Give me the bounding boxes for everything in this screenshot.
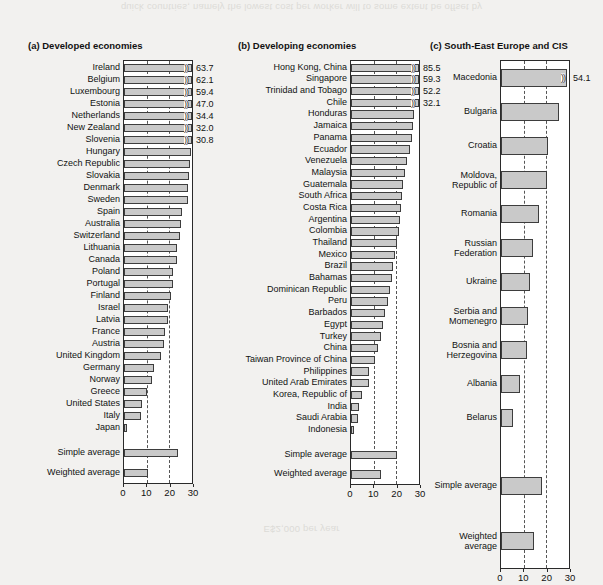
bar-row: Thailand — [351, 237, 419, 249]
axis-break-icon: )) — [411, 87, 415, 96]
bar — [351, 180, 403, 188]
value-label: 32.0 — [196, 123, 214, 133]
panel-a-title: (a) Developed economies — [28, 40, 193, 51]
bar — [124, 196, 188, 205]
bar — [124, 124, 192, 133]
bar-row: Estonia))47.0 — [124, 98, 192, 110]
bar — [351, 239, 397, 247]
bar-row: Philippines — [351, 366, 419, 378]
bar — [501, 477, 542, 495]
bar-row: Dominican Republic — [351, 284, 419, 296]
axis-tick-label: 0 — [347, 488, 352, 499]
category-label: Switzerland — [25, 231, 120, 241]
panel-c-title: (c) South-East Europe and CIS — [430, 40, 570, 51]
bar-row: Korea, Republic of — [351, 389, 419, 401]
bar-row: Belarus — [501, 401, 569, 435]
category-label: Lithuania — [25, 243, 120, 253]
bar — [124, 220, 181, 229]
bar-row: Argentina — [351, 214, 419, 226]
bar-row: Costa Rica — [351, 202, 419, 214]
value-label: 85.5 — [423, 63, 441, 73]
bar-row: Portugal — [124, 278, 192, 290]
category-label: Romania — [427, 209, 497, 219]
bar-row: Albania — [501, 367, 569, 401]
bar-row: Hungary — [124, 146, 192, 158]
bar-row: Mexico — [351, 249, 419, 261]
bar — [501, 341, 527, 359]
category-label: Bosnia and Herzegovina — [427, 341, 497, 360]
bar — [124, 208, 182, 217]
category-label: Luxembourg — [25, 87, 120, 97]
category-label: Belgium — [25, 75, 120, 85]
bar — [351, 426, 354, 434]
summary-label: Simple average — [235, 450, 347, 460]
bar-row: Egypt — [351, 319, 419, 331]
axis-break-icon: )) — [184, 99, 188, 108]
category-label: Japan — [25, 423, 120, 433]
summary-label: Weighted average — [235, 470, 347, 480]
category-label: France — [25, 327, 120, 337]
category-label: Venezuela — [235, 156, 347, 166]
bar-row: Italy — [124, 410, 192, 422]
bar-row: Honduras — [351, 109, 419, 121]
category-label: Trinidad and Tobago — [235, 86, 347, 96]
bar — [124, 148, 191, 157]
bar-row: Macedonia))54.1 — [501, 61, 569, 95]
bar — [501, 69, 567, 87]
bar — [351, 297, 388, 305]
category-label: Korea, Republic of — [235, 390, 347, 400]
category-label: Spain — [25, 207, 120, 217]
x-axis: 0102030 — [123, 484, 193, 500]
category-label: Estonia — [25, 99, 120, 109]
bar — [501, 137, 548, 155]
summary-row: Simple average — [501, 469, 569, 503]
panel-b-title: (b) Developing economies — [238, 40, 420, 51]
bar-row: Ireland))63.7 — [124, 62, 192, 74]
category-label: Egypt — [235, 320, 347, 330]
bar-row: Barbados — [351, 307, 419, 319]
category-label: Panama — [235, 133, 347, 143]
bar — [351, 227, 399, 235]
bar-row: Venezuela — [351, 155, 419, 167]
bar — [501, 103, 559, 121]
bar-row: India — [351, 401, 419, 413]
plot-box: Macedonia))54.1BulgariaCroatiaMoldova, R… — [500, 60, 570, 569]
bar — [351, 110, 414, 118]
bar-row: Switzerland — [124, 230, 192, 242]
category-label: Ecuador — [235, 145, 347, 155]
category-label: Hong Kong, China — [235, 63, 347, 73]
bar-row: Panama — [351, 132, 419, 144]
axis-break-icon: )) — [184, 63, 188, 72]
axis-tick-label: 20 — [164, 487, 175, 498]
category-label: Moldova, Republic of — [427, 171, 497, 190]
category-label: Israel — [25, 303, 120, 313]
bar-row: Belgium))62.1 — [124, 74, 192, 86]
bar — [124, 112, 192, 121]
category-label: Denmark — [25, 183, 120, 193]
summary-label: Weighted average — [25, 468, 120, 478]
category-label: Czech Republic — [25, 159, 120, 169]
bar — [124, 412, 141, 421]
bar-row: Guatemala — [351, 179, 419, 191]
bar-row: Colombia — [351, 226, 419, 238]
panel-southeast-europe-cis: (c) South-East Europe and CIS Macedonia)… — [430, 40, 570, 585]
category-label: Turkey — [235, 332, 347, 342]
axis-tick-label: 10 — [141, 487, 152, 498]
bar-row: United Arab Emirates — [351, 377, 419, 389]
category-label: Australia — [25, 219, 120, 229]
bar-row: Sweden — [124, 194, 192, 206]
bar — [501, 409, 513, 427]
bar — [124, 388, 147, 397]
x-axis: 0102030 — [500, 569, 570, 585]
category-label: Germany — [25, 363, 120, 373]
bar — [124, 328, 165, 337]
bar — [124, 400, 142, 409]
value-label: 34.4 — [196, 111, 214, 121]
bar — [351, 216, 400, 224]
category-label: Barbados — [235, 308, 347, 318]
bar-row: Ecuador — [351, 144, 419, 156]
category-label: Singapore — [235, 75, 347, 85]
bar — [351, 169, 405, 177]
axis-tick-label: 10 — [368, 488, 379, 499]
category-label: Taiwan Province of China — [235, 355, 347, 365]
